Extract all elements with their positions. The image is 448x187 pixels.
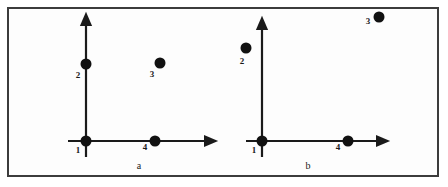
- panel-a-node-label-1: 1: [76, 146, 81, 155]
- panel-b-node-1[interactable]: [257, 136, 268, 147]
- panel-a-node-3[interactable]: [155, 58, 166, 69]
- panel-caption-a: a: [137, 161, 141, 171]
- panel-b-node-label-3: 3: [366, 17, 371, 26]
- panel-caption-b: b: [306, 161, 311, 171]
- figure-container: 12341234 ab: [0, 0, 448, 187]
- figure-frame: [7, 7, 439, 177]
- panel-b-node-label-4: 4: [336, 143, 341, 152]
- panel-a-node-label-4: 4: [143, 143, 148, 152]
- panel-b-node-label-1: 1: [252, 146, 257, 155]
- panel-b-node-label-2: 2: [240, 57, 245, 66]
- panel-a-node-2[interactable]: [81, 59, 92, 70]
- panel-b-node-3[interactable]: [374, 12, 385, 23]
- panel-a-node-1[interactable]: [81, 136, 92, 147]
- panel-b-node-4[interactable]: [343, 136, 354, 147]
- panel-a-node-label-3: 3: [150, 70, 155, 79]
- panel-a-node-label-2: 2: [76, 71, 81, 80]
- panel-a-node-4[interactable]: [150, 136, 161, 147]
- panel-b-node-2[interactable]: [241, 43, 252, 54]
